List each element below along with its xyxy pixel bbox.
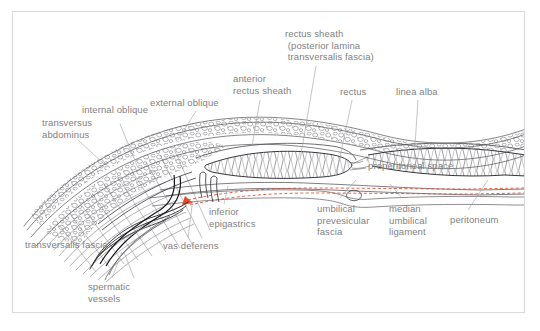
label-inferior-epigastrics: inferior epigastrics [209, 206, 256, 229]
label-spermatic-vessels: spermatic vessels [88, 281, 130, 304]
label-rectus-sheath: rectus sheath (posterior lamina transver… [285, 28, 374, 63]
label-anterior-rectus-sheath: anterior rectus sheath [233, 73, 291, 96]
label-preperitoneal-space: preperitoneal space [368, 160, 453, 172]
label-transversalis-fascia: transversalis fascia [25, 239, 108, 251]
label-linea-alba: linea alba [396, 86, 438, 98]
label-external-oblique: external oblique [150, 97, 219, 109]
label-internal-oblique: internal oblique [82, 104, 148, 116]
label-rectus: rectus [340, 86, 366, 98]
label-vas-deferens: vas deferens [163, 240, 219, 252]
label-transversus-abdominus: transversus abdominus [42, 117, 92, 140]
label-median-umbilical-ligament: median umbilical ligament [389, 203, 427, 238]
epigastric-arrow-marker [182, 196, 193, 205]
diagram-page: transversus abdominus internal oblique e… [0, 0, 540, 331]
anatomy-illustration [0, 0, 540, 331]
label-umbilical-prevesicular-fascia: umbilical prevesicular fascia [317, 203, 369, 238]
label-peritoneum: peritoneum [450, 214, 499, 226]
